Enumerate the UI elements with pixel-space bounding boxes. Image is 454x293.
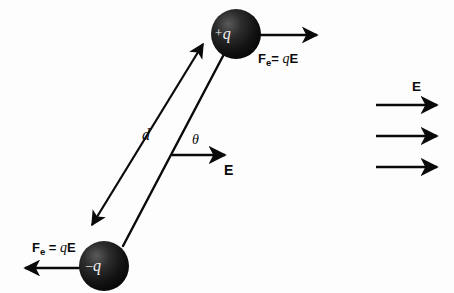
- force-field-e: E: [289, 51, 298, 66]
- force-symbol-f: F: [32, 240, 40, 255]
- force-symbol-f: F: [258, 51, 266, 66]
- force-equals: =: [45, 240, 60, 255]
- positive-charge-label: +q: [215, 25, 231, 43]
- negative-charge-sign: –: [86, 257, 93, 272]
- field-label-center: E: [224, 163, 233, 177]
- force-on-positive-label: Fe= qE: [258, 52, 298, 67]
- positive-charge-sign: +: [215, 25, 223, 40]
- separation-label: d: [142, 127, 150, 143]
- negative-charge-symbol: q: [93, 257, 102, 274]
- positive-charge-symbol: q: [223, 25, 232, 42]
- angle-theta-label: θ: [192, 133, 199, 147]
- force-field-e: E: [67, 240, 76, 255]
- negative-charge-label: –q: [86, 257, 102, 275]
- figure-canvas: +q –q Fe= qE Fe = qE d θ E E: [0, 0, 454, 293]
- field-label-right: E: [412, 80, 421, 94]
- force-equals: =: [271, 51, 282, 66]
- force-on-negative-label: Fe = qE: [32, 241, 76, 256]
